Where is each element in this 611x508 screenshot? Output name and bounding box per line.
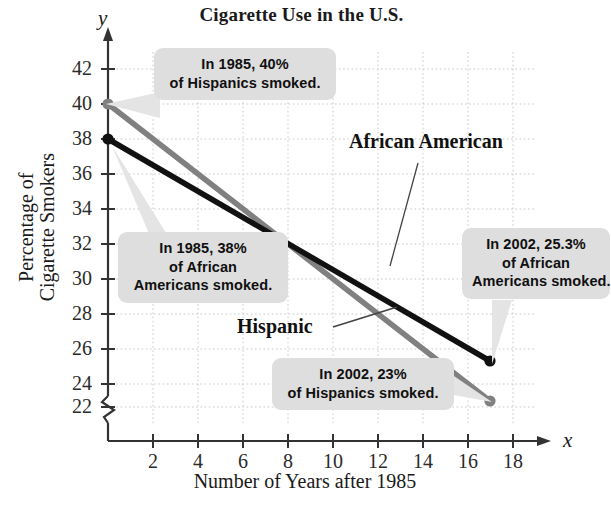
callout-african-american-1985: In 1985, 38% of African Americans smoked…: [118, 232, 288, 303]
y-tick-label: 32: [58, 232, 92, 255]
y-tick-label: 38: [58, 127, 92, 150]
y-tick-label: 34: [58, 197, 92, 220]
x-axis-title: Number of Years after 1985: [95, 470, 515, 493]
y-tick-label: 22: [58, 395, 92, 418]
y-tick-label: 42: [58, 57, 92, 80]
callout-line: of Hispanics smoked.: [282, 384, 444, 403]
callout-hispanic-1985: In 1985, 40% of Hispanics smoked.: [154, 48, 336, 100]
x-axis-letter: x: [563, 428, 572, 453]
y-tick-label: 28: [58, 302, 92, 325]
series-label-hispanic: Hispanic: [237, 315, 313, 338]
callout-line: In 2002, 25.3%: [472, 235, 600, 254]
series-label-african-american: African American: [349, 130, 503, 153]
callout-african-american-2002: In 2002, 25.3% of African Americans smok…: [462, 228, 610, 299]
y-axis-letter: y: [98, 6, 107, 31]
y-tick-label: 24: [58, 372, 92, 395]
callout-line: of Hispanics smoked.: [164, 74, 326, 93]
y-tick-label: 36: [58, 162, 92, 185]
callout-hispanic-2002: In 2002, 23% of Hispanics smoked.: [272, 358, 454, 410]
y-tick-label: 26: [58, 337, 92, 360]
callout-line: of African: [472, 254, 600, 273]
callout-tail-aa-2002: [492, 300, 512, 364]
datapoint-african-american-1985: [102, 133, 113, 144]
callout-line: In 1985, 38%: [128, 239, 278, 258]
y-tick-label: 40: [58, 92, 92, 115]
x-axis: [108, 436, 551, 446]
callout-line: Americans smoked.: [472, 272, 600, 291]
callout-tail-hispanic-1985: [106, 92, 160, 118]
callout-line: Americans smoked.: [128, 276, 278, 295]
y-axis-title: Percentage of Cigarette Smokers: [16, 102, 58, 352]
y-axis: [103, 27, 113, 396]
y-axis-title-line-1: Percentage of: [16, 102, 37, 352]
callout-line: of African: [128, 258, 278, 277]
y-axis-break-symbol: [102, 396, 114, 423]
y-tick-label: 30: [58, 267, 92, 290]
y-axis-title-line-2: Cigarette Smokers: [37, 102, 58, 352]
leader-line-african-american: [390, 163, 418, 266]
callout-line: In 2002, 23%: [282, 365, 444, 384]
callout-line: In 1985, 40%: [164, 55, 326, 74]
